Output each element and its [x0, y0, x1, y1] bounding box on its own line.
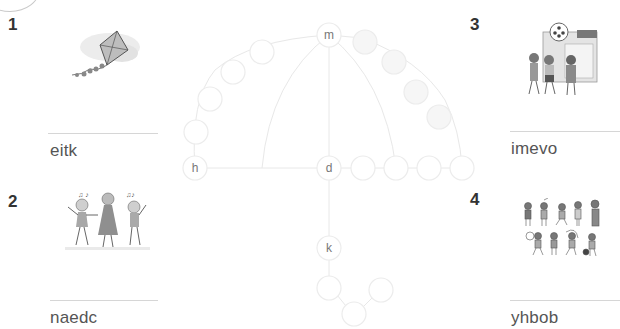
letter-puzzle: m h d k	[0, 0, 620, 329]
puzzle-letter-d: d	[314, 158, 344, 178]
puzzle-letter-k: k	[314, 238, 344, 258]
puzzle-letter-m: m	[314, 25, 344, 45]
puzzle-letter-h: h	[180, 158, 210, 178]
puzzle-lines	[0, 0, 620, 329]
